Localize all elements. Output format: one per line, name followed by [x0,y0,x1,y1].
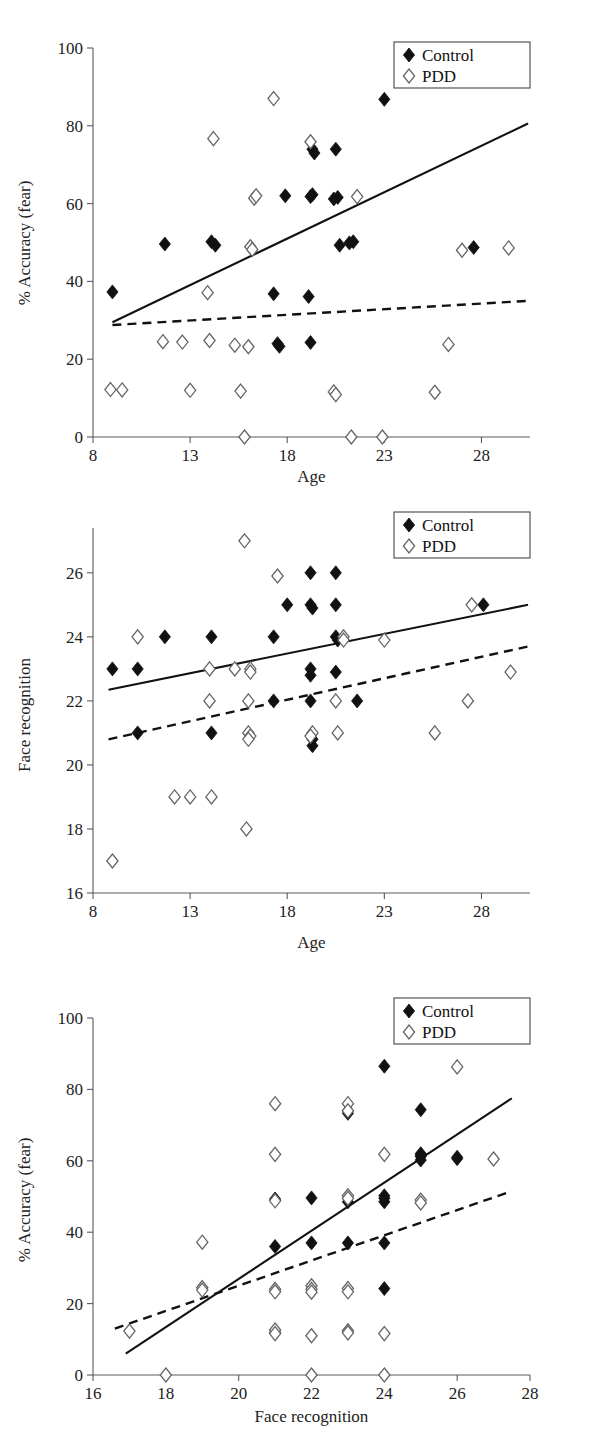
pdd-point-marker [208,132,219,146]
x-axis-title: Age [297,933,325,952]
control-point-marker [330,665,341,679]
scatter-panel-3: 02040608010016182022242628Face recogniti… [0,960,590,1453]
series-pdd [105,92,514,444]
control-point-marker [379,92,390,106]
control-point-marker [132,726,143,740]
pdd-point-marker [456,243,467,257]
pdd-point-marker [202,286,213,300]
control-point-marker [268,694,279,708]
control-point-marker [306,1236,317,1250]
control-point-marker [468,241,479,255]
x-tick-label: 20 [230,1384,247,1403]
pdd-point-marker [377,430,388,444]
pdd-point-marker [206,790,217,804]
series-control [107,566,489,753]
pdd-point-marker [330,694,341,708]
y-tick-label: 0 [75,1366,84,1385]
x-tick-label: 8 [89,446,98,465]
pdd-point-marker [429,385,440,399]
x-tick-label: 26 [449,1384,466,1403]
pdd-point-marker [177,335,188,349]
control-point-marker [268,287,279,301]
control-point-marker [306,1191,317,1205]
pdd-point-marker [269,1147,280,1161]
y-tick-label: 40 [66,272,83,291]
control-point-marker [303,290,314,304]
x-tick-label: 23 [376,902,393,921]
fit-line-control [126,1098,512,1353]
x-tick-label: 18 [157,1384,174,1403]
legend: ControlPDD [394,42,530,88]
y-axis-title: % Accuracy (fear) [15,1138,34,1263]
x-tick-label: 13 [182,902,199,921]
legend-label-control: Control [422,1002,474,1021]
chart-svg-3: 02040608010016182022242628Face recogniti… [0,960,590,1453]
pdd-point-marker [185,790,196,804]
y-tick-label: 100 [58,1009,84,1028]
x-tick-label: 16 [85,1384,102,1403]
pdd-point-marker [239,430,250,444]
y-tick-label: 16 [66,884,83,903]
legend: ControlPDD [394,512,530,558]
pdd-point-marker [346,430,357,444]
legend-label-pdd: PDD [422,537,456,556]
pdd-point-marker [269,1097,280,1111]
control-point-marker [342,1236,353,1250]
control-point-marker [330,566,341,580]
series-pdd [124,1060,499,1382]
x-axis-title: Age [297,467,325,486]
chart-svg-2: 161820222426813182328AgeFace recognition… [0,490,590,960]
control-point-marker [334,238,345,252]
pdd-point-marker [505,665,516,679]
control-point-marker [478,598,489,612]
pdd-point-marker [269,1194,280,1208]
x-tick-label: 28 [522,1384,539,1403]
control-point-marker [282,598,293,612]
y-tick-label: 20 [66,1295,83,1314]
axes: 02040608010016182022242628 [58,1009,539,1403]
x-tick-label: 28 [473,902,490,921]
fit-line-pdd [109,646,529,739]
control-point-marker [159,237,170,251]
scatter-panel-2: 161820222426813182328AgeFace recognition… [0,490,590,960]
pdd-point-marker [243,694,254,708]
x-tick-label: 18 [279,902,296,921]
control-point-marker [415,1103,426,1117]
fit-line-control [109,605,529,690]
control-point-marker [107,285,118,299]
pdd-point-marker [169,790,180,804]
y-tick-label: 22 [66,692,83,711]
control-point-marker [280,189,291,203]
x-tick-label: 28 [473,446,490,465]
control-point-marker [305,566,316,580]
pdd-point-marker [157,335,168,349]
pdd-point-marker [105,383,116,397]
pdd-point-marker [306,1368,317,1382]
pdd-point-marker [241,822,252,836]
control-point-marker [206,726,217,740]
x-tick-label: 22 [303,1384,320,1403]
y-tick-label: 0 [75,428,84,447]
y-tick-label: 100 [58,39,84,58]
control-point-marker [452,1152,463,1166]
pdd-point-marker [332,726,343,740]
y-tick-label: 60 [66,1152,83,1171]
fit-line-pdd [115,1191,512,1328]
control-point-marker [268,630,279,644]
pdd-point-marker [117,383,128,397]
y-axis-title: Face recognition [15,658,34,772]
y-tick-label: 80 [66,117,83,136]
pdd-point-marker [452,1060,463,1074]
pdd-point-marker [443,337,454,351]
control-point-marker [330,598,341,612]
legend-label-pdd: PDD [422,67,456,86]
x-tick-label: 23 [376,446,393,465]
y-tick-label: 60 [66,195,83,214]
control-point-marker [206,630,217,644]
x-tick-label: 18 [279,446,296,465]
pdd-point-marker [235,384,246,398]
control-point-marker [132,662,143,676]
control-point-marker [330,142,341,156]
x-tick-label: 8 [89,902,98,921]
axes: 161820222426813182328 [66,528,530,921]
